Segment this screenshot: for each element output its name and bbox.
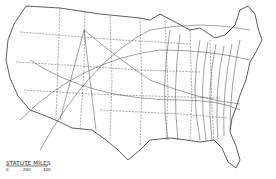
isolines [20, 25, 250, 150]
scale-tick-200: 200 [23, 167, 31, 172]
map-canvas [0, 0, 276, 179]
scale-tick-0: 0 [6, 167, 9, 172]
scale-tick-400: 400 [43, 167, 51, 172]
us-outline [6, 6, 262, 168]
scale-title: STATUTE MILES [6, 160, 51, 166]
